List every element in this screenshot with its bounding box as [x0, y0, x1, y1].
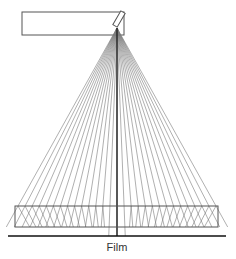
xray-beam [117, 28, 159, 206]
xray-beam [117, 28, 124, 206]
xray-beam [117, 28, 202, 206]
xray-beam [117, 28, 174, 206]
xray-beam [110, 28, 117, 206]
xray-beam [25, 28, 117, 206]
xray-rays [6, 28, 227, 236]
xray-beam [60, 28, 117, 206]
xray-beam [117, 28, 152, 206]
xray-beam [89, 28, 117, 206]
xray-beam [82, 28, 117, 206]
xray-tube [22, 11, 125, 35]
tube-housing [22, 12, 124, 35]
xray-beam [39, 28, 117, 206]
xray-beam [68, 28, 118, 206]
xray-beam [117, 28, 195, 206]
film-label: Film [87, 241, 147, 253]
xray-beam [117, 28, 209, 206]
xray-beam [75, 28, 117, 206]
xray-beam [117, 28, 131, 206]
xray-beam [18, 28, 117, 206]
xray-beam [117, 28, 216, 206]
anode-target [113, 11, 125, 27]
xray-beam [117, 28, 145, 206]
xray-beam [53, 28, 117, 206]
xray-beam [117, 28, 181, 206]
xray-beam [117, 28, 167, 206]
xray-beam [32, 28, 117, 206]
xray-grid-diagram [0, 0, 236, 259]
xray-beam [103, 28, 117, 206]
